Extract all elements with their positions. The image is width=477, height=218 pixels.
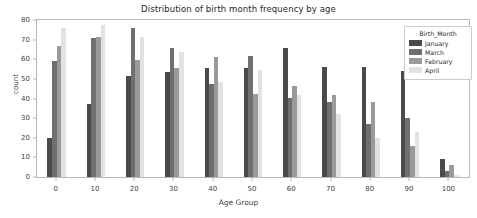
y-tick-label: 10 — [21, 153, 30, 161]
legend-item: January — [409, 39, 467, 47]
y-tick-label: 0 — [26, 173, 30, 181]
legend-items: JanuaryMarchFebruaryApril — [409, 39, 467, 74]
x-tick-label: 0 — [53, 185, 57, 193]
chart-figure: Distribution of birth month frequency by… — [0, 0, 477, 218]
y-tick-label: 70 — [21, 36, 30, 44]
y-tick-label: 60 — [21, 55, 30, 63]
x-tick-label: 10 — [90, 185, 99, 193]
x-tick-label: 70 — [326, 185, 335, 193]
x-tick-label: 20 — [130, 185, 139, 193]
x-tick-label: 100 — [442, 185, 455, 193]
legend-swatch — [409, 49, 422, 55]
x-tick-mark — [448, 178, 449, 181]
legend-swatch — [409, 58, 422, 64]
bar — [375, 138, 380, 177]
y-tick-label: 20 — [21, 134, 30, 142]
x-tick-label: 40 — [208, 185, 217, 193]
legend: Birth_Month JanuaryMarchFebruaryApril — [404, 26, 472, 80]
x-tick-label: 50 — [248, 185, 257, 193]
bar — [61, 28, 66, 177]
y-tick-label: 40 — [21, 95, 30, 103]
legend-label: March — [425, 49, 444, 56]
legend-swatch — [409, 67, 422, 73]
bar — [297, 95, 302, 177]
y-tick-label: 50 — [21, 75, 30, 83]
legend-label: April — [425, 67, 439, 74]
x-tick-mark — [55, 178, 56, 181]
x-tick-mark — [409, 178, 410, 181]
x-tick-mark — [94, 178, 95, 181]
legend-label: January — [425, 40, 448, 47]
bar — [336, 114, 341, 177]
bar — [258, 70, 263, 177]
x-axis-ticks: 0102030405060708090100 — [36, 178, 470, 196]
x-tick-label: 60 — [287, 185, 296, 193]
legend-item: April — [409, 66, 467, 74]
legend-title: Birth_Month — [409, 30, 467, 37]
legend-label: February — [425, 58, 452, 65]
x-tick-mark — [173, 178, 174, 181]
y-tick-label: 30 — [21, 114, 30, 122]
x-tick-mark — [330, 178, 331, 181]
y-axis-label: count — [12, 54, 20, 114]
bar — [415, 132, 420, 177]
bar — [101, 25, 106, 177]
bar — [454, 175, 459, 177]
x-tick-mark — [212, 178, 213, 181]
x-tick-mark — [134, 178, 135, 181]
bar — [179, 52, 184, 177]
x-tick-mark — [369, 178, 370, 181]
bar — [218, 82, 223, 177]
x-tick-label: 30 — [169, 185, 178, 193]
legend-item: March — [409, 48, 467, 56]
x-tick-mark — [291, 178, 292, 181]
x-tick-mark — [252, 178, 253, 181]
bar — [140, 37, 145, 177]
x-tick-label: 90 — [405, 185, 414, 193]
y-tick-label: 80 — [21, 16, 30, 24]
legend-swatch — [409, 40, 422, 46]
legend-item: February — [409, 57, 467, 65]
x-tick-label: 80 — [365, 185, 374, 193]
x-axis-label: Age Group — [0, 198, 477, 207]
chart-title: Distribution of birth month frequency by… — [0, 4, 477, 14]
